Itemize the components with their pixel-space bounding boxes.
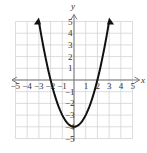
x-tick-label: 1 [84, 81, 89, 91]
x-tick-label: 5 [131, 81, 136, 91]
y-tick-label: 1 [68, 63, 73, 73]
x-tick-label: 4 [119, 81, 124, 91]
y-tick-label: 2 [68, 52, 73, 62]
y-tick-label: 4 [68, 28, 73, 38]
x-tick-label: −3 [34, 81, 44, 91]
y-tick-label: 5 [68, 17, 73, 27]
x-axis-label: x [140, 75, 145, 85]
y-tick-label: −3 [65, 110, 75, 120]
x-tick-label: 3 [107, 81, 112, 91]
y-tick-label: −1 [65, 87, 75, 97]
parabola-graph: −5−4−3−2−11234554321−1−2−3−4−5 x y [0, 0, 147, 153]
y-tick-label: 3 [68, 40, 73, 50]
x-tick-label: −4 [22, 81, 32, 91]
x-tick-label: −5 [11, 81, 21, 91]
y-tick-label: −5 [65, 134, 75, 144]
y-tick-label: −2 [65, 98, 75, 108]
y-axis-label: y [70, 1, 75, 11]
